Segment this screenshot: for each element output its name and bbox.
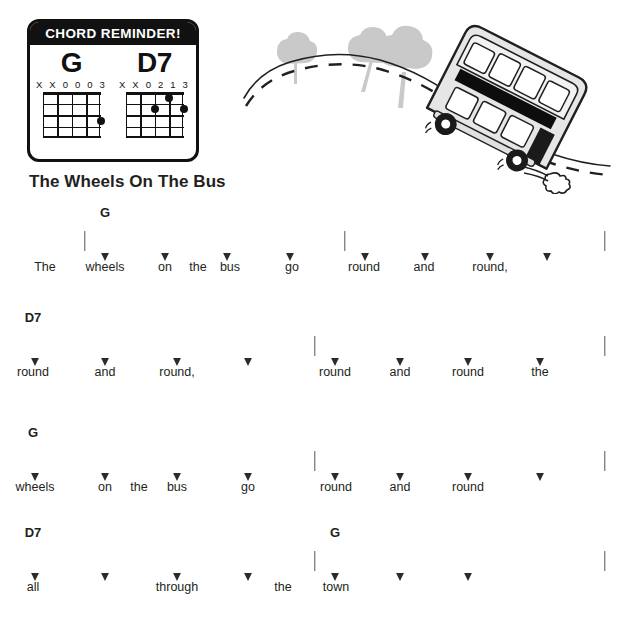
chord-reminder-header: CHORD REMINDER! [30, 22, 196, 45]
strum-down-arrow [331, 447, 340, 481]
measure-bar-line [314, 551, 315, 571]
chord-diagram-d7 [126, 92, 184, 138]
chord-name: G [34, 48, 110, 78]
measure-bar-line [314, 336, 315, 356]
exhaust-puff [520, 166, 570, 194]
chord-fret-line [126, 115, 184, 117]
chord-fret-line [43, 136, 101, 138]
lyric-word: round [452, 480, 484, 494]
strum-down-arrow [286, 227, 295, 261]
tree-icon [377, 26, 432, 108]
chord-card-list: GX X 0 0 0 3D7X X 0 2 1 3 [30, 45, 196, 138]
measure-bar-line [344, 231, 345, 251]
lyric-word: on [98, 480, 112, 494]
chord-label: D7 [25, 310, 42, 325]
chord-fret-line [43, 127, 101, 129]
strum-down-arrow [396, 447, 405, 481]
lyric-word: and [95, 365, 116, 379]
strum-down-arrow [31, 547, 40, 581]
strum-down-arrow [464, 332, 473, 366]
chord-fret-line [43, 115, 101, 117]
strum-down-arrow [223, 227, 232, 261]
strum-down-arrow [173, 447, 182, 481]
lyric-word: round [17, 365, 49, 379]
chart-line: D7roundandround,roundandroundthe [0, 310, 627, 410]
lyric-word: round, [472, 260, 507, 274]
strum-down-arrow [543, 227, 552, 261]
strum-down-arrow [396, 332, 405, 366]
lyric-word: through [156, 580, 198, 594]
lyric-word: go [241, 480, 255, 494]
measure-bar-line [314, 451, 315, 471]
strum-down-arrow [464, 547, 473, 581]
chord-name: D7 [117, 48, 193, 78]
measure-bar-line [604, 231, 605, 251]
lyric-word: the [274, 580, 291, 594]
chord-fingering: X X 0 2 1 3 [117, 79, 193, 90]
lyric-word: wheels [16, 480, 55, 494]
strum-down-arrow [536, 332, 545, 366]
lyric-word: the [531, 365, 548, 379]
chord-reminder-box: CHORD REMINDER! GX X 0 0 0 3D7X X 0 2 1 … [27, 19, 199, 162]
chord-diagram-wrap [34, 92, 110, 138]
strum-down-arrow [173, 332, 182, 366]
chord-label: G [100, 205, 110, 220]
chord-label: G [28, 425, 38, 440]
strum-down-arrow [244, 547, 253, 581]
bus-illustration [232, 14, 622, 194]
lyric-word: bus [220, 260, 240, 274]
chord-finger-dot [165, 94, 173, 102]
strum-down-arrow [31, 332, 40, 366]
strum-down-arrow [361, 227, 370, 261]
lyric-word: go [285, 260, 299, 274]
chord-card-d7: D7X X 0 2 1 3 [117, 48, 193, 138]
lyric-word: and [414, 260, 435, 274]
song-title: The Wheels On The Bus [29, 172, 226, 192]
chord-fret-line [43, 104, 101, 106]
chart-line: Gwheelsonthebusgoroundandround [0, 425, 627, 525]
lyric-word: all [27, 580, 40, 594]
chord-card-g: GX X 0 0 0 3 [34, 48, 110, 138]
chord-fret-line [126, 136, 184, 138]
chord-label: G [330, 525, 340, 540]
lyric-word: the [189, 260, 206, 274]
chord-diagram-g [43, 92, 101, 138]
chord-finger-dot [151, 105, 159, 113]
strum-down-arrow [396, 547, 405, 581]
chord-diagram-wrap [117, 92, 193, 138]
lyric-word: town [323, 580, 349, 594]
strum-down-arrow [244, 447, 253, 481]
strum-down-arrow [101, 547, 110, 581]
lyric-word: the [130, 480, 147, 494]
tree-icon [277, 32, 317, 84]
lyric-word: round [319, 365, 351, 379]
strum-down-arrow [536, 447, 545, 481]
strum-down-arrow [161, 227, 170, 261]
strum-down-arrow [101, 447, 110, 481]
lyric-word: and [390, 365, 411, 379]
strum-down-arrow [464, 447, 473, 481]
lyric-word: round [452, 365, 484, 379]
chord-finger-dot [97, 117, 105, 125]
strum-down-arrow [173, 547, 182, 581]
chord-fret-line [126, 127, 184, 129]
lyric-word: round [348, 260, 380, 274]
strum-down-arrow [244, 332, 253, 366]
double-decker-bus [417, 22, 590, 189]
strum-down-arrow [331, 547, 340, 581]
lyric-word: and [390, 480, 411, 494]
lyric-word: bus [167, 480, 187, 494]
lyric-word: wheels [86, 260, 125, 274]
chord-finger-dot [180, 105, 188, 113]
strum-down-arrow [486, 227, 495, 261]
lyric-word: round, [159, 365, 194, 379]
measure-bar-line [604, 451, 605, 471]
lyric-word: on [158, 260, 172, 274]
chart-line: GThewheelsonthebusgoroundandround, [0, 205, 627, 305]
strum-down-arrow [101, 227, 110, 261]
measure-bar-line [84, 231, 85, 251]
lyric-word: The [34, 260, 56, 274]
measure-bar-line [604, 551, 605, 571]
chord-label: D7 [25, 525, 42, 540]
strum-down-arrow [421, 227, 430, 261]
